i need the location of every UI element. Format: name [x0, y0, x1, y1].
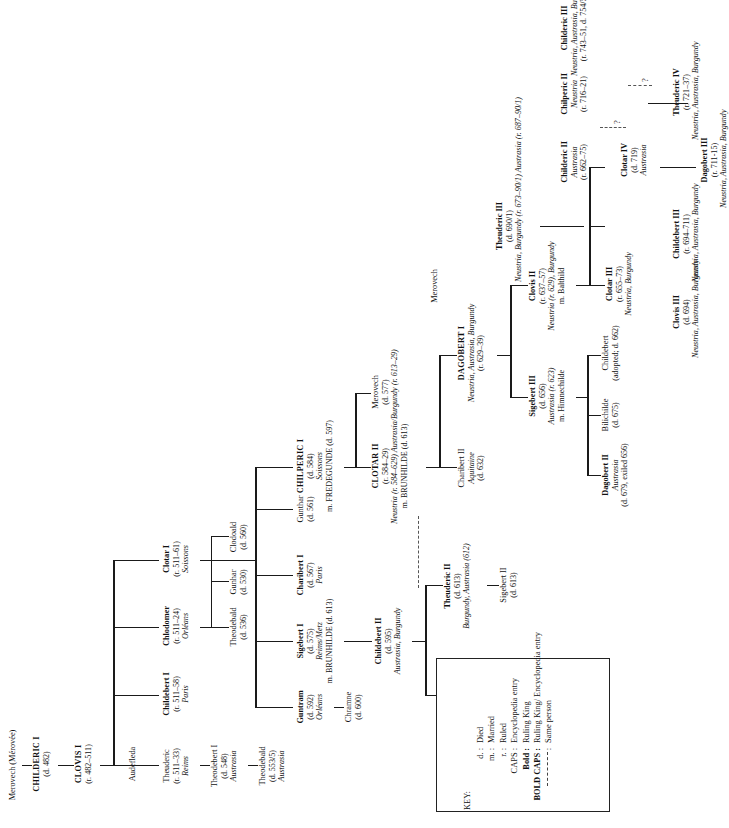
- uncertainty-marker-1: ?: [612, 120, 622, 124]
- node-region: Soissons: [315, 416, 325, 516]
- node-region: Neustria, Burgundy (r. 673–90/1) Austras…: [514, 170, 524, 282]
- connector: [100, 765, 114, 766]
- node-region: Neustria, Austrasia, Burgundy: [570, 0, 580, 76]
- node-region: Neustria, Austrasia, Burgundy: [691, 44, 701, 140]
- node-label: Theuderic II: [443, 540, 453, 632]
- connector: [58, 765, 74, 766]
- node-clotar-iii-real: Clotar III (r. 655–73) Neustria, Burgund…: [605, 238, 634, 330]
- key-row-died: d. : Died: [476, 660, 485, 810]
- connector: [589, 285, 605, 286]
- key-row-bold: Bold : Ruling King: [522, 660, 531, 810]
- connector: [589, 226, 605, 227]
- key-meaning: Encyclopedia entry: [510, 742, 519, 743]
- node-dates: (d. 560): [239, 495, 249, 579]
- node-spouse: m. Balthild: [557, 234, 567, 338]
- node-spouse: m. FREDEGUNDE (d. 597): [325, 416, 335, 516]
- node-label: Clodoald: [229, 495, 239, 579]
- node-theuderic-iii: Theuderic III (d. 690/1) Neustria, Burgu…: [495, 170, 524, 282]
- node-dates: (r. 655–73): [615, 238, 625, 330]
- connector: [497, 355, 511, 356]
- node-label: Merovech: [430, 244, 440, 328]
- node-merovech-dagobert-son: Merovech: [430, 244, 440, 328]
- node-childeric-iii: Childeric III Neustria, Austrasia, Burgu…: [560, 0, 589, 76]
- sibling-bar-chilperic1: [355, 394, 357, 468]
- node-dates: (r. 743–51, d. 754/5): [579, 0, 589, 76]
- node-spouse: m. BRUNHILDE (d. 613): [400, 408, 410, 524]
- node-clovis-ii: Clovis II (r. 637–57) Neustria (r. 629),…: [528, 234, 566, 338]
- connector: [510, 397, 528, 398]
- node-label: Childebert II: [374, 592, 384, 690]
- key-row-caps: CAPS : Encyclopedia entry: [510, 660, 519, 810]
- sibling-bar-chlodomer: [211, 536, 212, 628]
- key-title: KEY:: [463, 660, 472, 810]
- node-theodebert-i: Theodebert I (d. 548) Austrasia: [210, 718, 239, 814]
- connector: [113, 627, 159, 628]
- key-row-bold-caps: BOLD CAPS : Ruling King/ Encyclopedia en…: [533, 660, 542, 810]
- node-dates: (r. 511–61): [172, 511, 182, 607]
- connector: [587, 355, 601, 356]
- node-dates: (r. 637–57): [538, 234, 548, 338]
- node-region: Burgundy, Austrasia (612): [462, 540, 472, 632]
- node-clovis-i: CLOVIS I (r. 482–511): [74, 708, 93, 820]
- node-region: Austrasia (r. 623): [547, 346, 557, 446]
- connector: [589, 167, 605, 168]
- node-label: Sigebert II: [499, 542, 509, 628]
- node-dagobert-iii: Dagobert III (r. 711-15) Neustria, Austr…: [700, 112, 729, 208]
- connector: [540, 226, 584, 227]
- sibling-bar-sigebert3: [587, 356, 589, 476]
- node-dates: (d. 595): [384, 592, 394, 690]
- node-region: Neustria, Austrasia, Burgundy: [467, 290, 477, 416]
- dashed-link-chilperic2: [600, 127, 626, 128]
- node-region: Neustria, Austrasia, Burgundy: [719, 112, 729, 208]
- node-label: Merovech (Mérovée): [8, 710, 18, 820]
- connector: [255, 575, 293, 576]
- node-label: Merovech: [371, 350, 381, 434]
- node-dates: (d. 548): [220, 718, 230, 814]
- sibling-bar-clovis2: [589, 168, 591, 286]
- node-region: Austrasia: [639, 116, 649, 204]
- node-dates: (r. 482–511): [84, 708, 94, 820]
- node-region: Neustria (r. 584–629) Austrasia/Burgundy…: [390, 408, 400, 524]
- sibling-bar-childebert2: [425, 586, 427, 696]
- node-label: Childebert III: [672, 186, 682, 282]
- node-label: Theuderic III: [495, 170, 505, 282]
- key-meaning: Died: [476, 742, 485, 743]
- node-clotar-i: Clotar I (r. 511–61) Soissons: [162, 511, 191, 607]
- node-dates: (d. 656): [538, 346, 548, 446]
- node-label: Charibert II: [457, 418, 467, 518]
- node-region: Austrasia: [277, 718, 287, 814]
- connector: [255, 467, 293, 468]
- node-dates: (r. 711-15): [710, 112, 720, 208]
- sibling-bar-dagobert1: [510, 286, 512, 398]
- node-label: CHILDERIC I: [32, 706, 42, 822]
- node-dates: (d. 577): [381, 350, 391, 434]
- node-label: CHILPERIC I: [296, 416, 306, 516]
- node-childebert-ii: Childebert II (d. 595) Austrasia, Burgun…: [374, 592, 403, 690]
- node-merovech-577: Merovech (d. 577): [371, 350, 390, 434]
- connector: [425, 585, 443, 586]
- node-label: Childeric III: [560, 0, 570, 76]
- node-label: Clotar I: [162, 511, 172, 607]
- same-person-dashed-line: [418, 516, 419, 588]
- connector: [344, 641, 372, 642]
- dashed-link-childeric3: [628, 85, 652, 86]
- connector: [412, 641, 426, 642]
- node-dates: (d. 613): [453, 540, 463, 632]
- node-label: Dagobert III: [700, 112, 710, 208]
- key-symbol: Bold :: [522, 743, 531, 810]
- connector: [334, 707, 344, 708]
- connector: [439, 467, 457, 468]
- connector: [660, 167, 696, 168]
- node-region: Aquitaine: [467, 418, 477, 518]
- connector: [22, 765, 32, 766]
- connector: [211, 536, 229, 537]
- connector: [211, 581, 229, 582]
- sibling-bar-clotar2: [439, 356, 441, 468]
- node-region: Neustria, Burgundy: [624, 238, 634, 330]
- node-label: Theodebald: [258, 718, 268, 814]
- node-sigebert-iii: Sigebert III (d. 656) Austrasia (r. 623)…: [528, 346, 566, 446]
- dashed-line-icon: :: [544, 743, 553, 810]
- connector: [255, 509, 293, 510]
- key-row-same-person: : Same person: [544, 660, 553, 810]
